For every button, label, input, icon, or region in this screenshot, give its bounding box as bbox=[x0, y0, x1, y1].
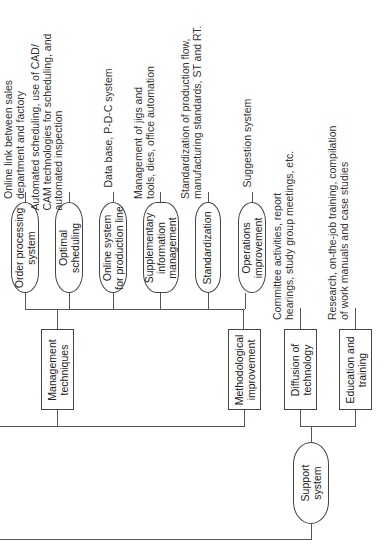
connector-line bbox=[113, 192, 114, 202]
connector-line bbox=[208, 192, 209, 202]
node-standardization: Standardization bbox=[195, 202, 221, 293]
desc-standardization: Standardization of production flow, manu… bbox=[180, 25, 203, 199]
connector-line bbox=[69, 293, 70, 309]
node-management-techniques: Management techniques bbox=[41, 329, 74, 410]
desc-order-processing: Online link between sales department and… bbox=[3, 80, 26, 199]
desc-supplementary-info: Management of jigs and tools, dies, offi… bbox=[133, 66, 156, 199]
connector-line bbox=[300, 410, 301, 426]
connector-line bbox=[113, 293, 114, 309]
connector-line bbox=[355, 410, 356, 426]
node-support-system: Support system bbox=[293, 442, 329, 524]
connector-line bbox=[252, 192, 253, 202]
connector-line bbox=[0, 426, 245, 427]
connector-line bbox=[0, 539, 312, 540]
connector-line bbox=[355, 308, 356, 329]
desc-diffusion-of-technology: Committee activities, report hearings, s… bbox=[272, 151, 295, 320]
node-optimal-scheduling: Optimal scheduling bbox=[55, 202, 83, 293]
diagram-canvas: Order processing system Optimal scheduli… bbox=[0, 0, 390, 556]
connector-line bbox=[243, 309, 244, 329]
desc-optimal-scheduling: Automated scheduling, use of CAD/ CAM te… bbox=[30, 34, 65, 211]
connector-line bbox=[300, 426, 356, 427]
node-online-system-production-line: Online system for production line bbox=[99, 202, 127, 293]
connector-line bbox=[311, 426, 312, 442]
connector-line bbox=[311, 524, 312, 539]
connector-line bbox=[208, 293, 209, 309]
node-methodological-improvement: Methodological improvement bbox=[228, 329, 261, 410]
desc-operations-improvement: Suggestion system bbox=[242, 99, 254, 188]
node-order-processing-system: Order processing system bbox=[11, 202, 39, 293]
node-education-and-training: Education and training bbox=[339, 329, 372, 410]
connector-line bbox=[57, 309, 58, 329]
connector-line bbox=[300, 308, 301, 329]
node-operations-improvement: Operations improvement bbox=[238, 202, 266, 293]
connector-line bbox=[69, 192, 70, 202]
desc-online-system: Data base, P-D-C system bbox=[103, 68, 115, 187]
connector-line bbox=[57, 410, 58, 426]
connector-line bbox=[245, 293, 246, 309]
connector-line bbox=[244, 410, 245, 426]
node-supplementary-information-management: Supplementary information management bbox=[143, 202, 179, 293]
desc-education-and-training: Research, on-the-job training, compilati… bbox=[327, 126, 350, 320]
connector-line bbox=[160, 192, 161, 202]
node-diffusion-of-technology: Diffusion of technology bbox=[284, 329, 317, 410]
connector-line bbox=[25, 293, 26, 309]
connector-line bbox=[160, 293, 161, 309]
